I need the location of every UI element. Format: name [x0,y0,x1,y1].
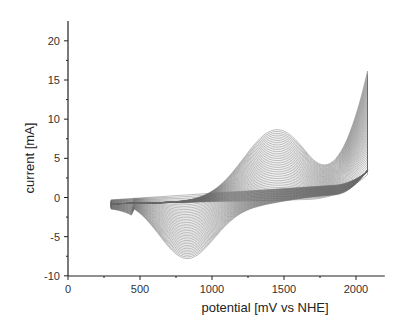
x-tick-label: 0 [65,283,71,295]
x-axis-label: potential [mV vs NHE] [201,300,328,315]
y-axis-label: current [mA] [22,123,37,194]
y-tick-label: 10 [48,113,60,125]
y-tick-label: -10 [44,270,60,282]
axes: 0500100015002000-10-505101520 [44,21,385,295]
y-tick-label: 20 [48,35,60,47]
y-tick-label: -5 [50,231,60,243]
cv-cycle [111,79,367,253]
cv-chart: 0500100015002000-10-505101520 potential … [0,0,416,335]
x-tick-label: 2000 [344,283,368,295]
y-tick-label: 5 [54,152,60,164]
x-tick-label: 500 [131,283,149,295]
x-tick-label: 1000 [200,283,224,295]
cv-curves [111,71,367,258]
x-tick-label: 1500 [272,283,296,295]
y-tick-label: 15 [48,74,60,86]
y-tick-label: 0 [54,192,60,204]
cv-cycle [111,77,367,256]
